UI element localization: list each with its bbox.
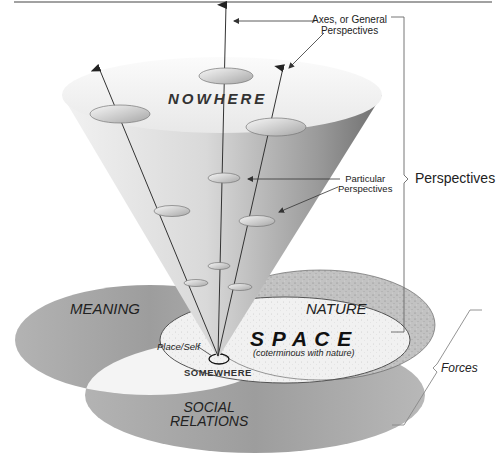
disc-general-right — [246, 118, 306, 136]
disc-particular-4 — [208, 263, 230, 270]
disc-particular-3 — [239, 216, 275, 227]
meaning-label: MEANING — [70, 300, 140, 317]
diagram-graphic — [0, 0, 500, 459]
nature-label: NATURE — [306, 300, 367, 317]
space-note: (coterminous with nature) — [253, 348, 355, 358]
nowhere-label: NOWHERE — [168, 90, 267, 107]
disc-particular-2 — [154, 206, 190, 217]
axes-general-label: Axes, or General Perspectives — [312, 14, 387, 36]
disc-particular-5 — [184, 280, 208, 287]
disc-general-center — [199, 68, 253, 84]
diagram-canvas: Axes, or General Perspectives NOWHERE Pa… — [0, 0, 500, 459]
particular-line-2: Perspectives — [338, 184, 392, 194]
disc-general-left — [90, 105, 150, 123]
axes-general-line-1: Axes, or General — [312, 14, 387, 25]
place-self-label: Place/Self — [157, 341, 200, 352]
perspectives-brace-label: Perspectives — [415, 170, 495, 186]
particular-perspectives-label: Particular Perspectives — [338, 174, 392, 194]
disc-particular-6 — [228, 284, 252, 291]
social-line-2: RELATIONS — [170, 414, 248, 428]
social-relations-label: SOCIAL RELATIONS — [170, 400, 248, 428]
forces-brace-label: Forces — [441, 361, 478, 375]
somewhere-label: SOMEWHERE — [184, 367, 252, 378]
axes-general-line-2: Perspectives — [312, 25, 387, 36]
social-line-1: SOCIAL — [170, 400, 248, 414]
disc-particular-1 — [208, 173, 240, 183]
